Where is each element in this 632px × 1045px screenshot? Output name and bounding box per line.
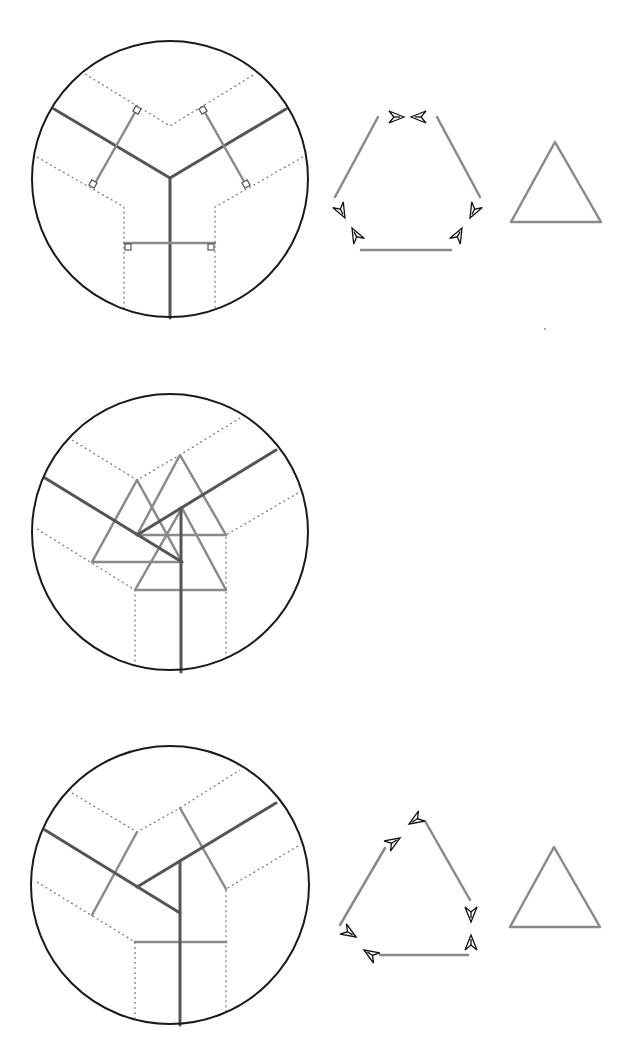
hexagon-loop-3 bbox=[340, 811, 477, 963]
dotted-boundary-right bbox=[215, 157, 303, 310]
dotted-boundary-right bbox=[226, 493, 298, 662]
arrow-icon bbox=[465, 907, 477, 922]
junction-arm-right bbox=[137, 803, 276, 887]
junction-arm-right bbox=[137, 450, 276, 535]
equilateral-triangle-1 bbox=[511, 142, 601, 222]
triangle-left bbox=[92, 480, 182, 562]
loop-edge bbox=[335, 117, 378, 197]
circle-outline bbox=[32, 394, 308, 670]
panel-1-circle-view bbox=[32, 41, 308, 318]
arrow-icon bbox=[333, 202, 351, 221]
loop-edge bbox=[425, 821, 470, 900]
arrow-icon bbox=[340, 924, 359, 942]
panel-1 bbox=[32, 41, 601, 318]
equilateral-triangle-3 bbox=[510, 847, 600, 927]
arrow-icon bbox=[384, 833, 403, 851]
arrow-icon bbox=[406, 811, 425, 829]
hexagon-loop-1 bbox=[333, 111, 483, 250]
stray-dot bbox=[544, 328, 546, 330]
diagram-canvas bbox=[0, 0, 632, 1045]
perpendicular-right bbox=[203, 109, 246, 185]
dotted-boundary-upper bbox=[72, 770, 240, 832]
right-angle-mark bbox=[125, 244, 131, 250]
dotted-boundary-upper bbox=[85, 74, 255, 126]
arrow-icon bbox=[465, 935, 477, 950]
arrow-icon bbox=[361, 945, 380, 963]
perpendicular-left bbox=[94, 109, 137, 185]
circle-outline bbox=[31, 746, 309, 1024]
arrow-icon bbox=[411, 111, 426, 123]
dotted-boundary-left bbox=[37, 529, 135, 666]
junction-arm-right bbox=[170, 109, 286, 178]
loop-edge bbox=[340, 848, 385, 925]
dotted-boundary-left bbox=[37, 157, 124, 310]
loop-edge bbox=[437, 117, 480, 197]
dotted-boundary-upper bbox=[72, 418, 240, 480]
arrow-icon bbox=[347, 225, 365, 244]
right-angle-mark bbox=[208, 244, 214, 250]
junction-arm-left bbox=[54, 109, 170, 178]
arrow-icon bbox=[450, 225, 468, 244]
dotted-boundary-left bbox=[37, 882, 135, 1018]
panel-3 bbox=[31, 746, 600, 1025]
panel-2 bbox=[32, 394, 308, 672]
panel-3-circle-view bbox=[31, 746, 309, 1025]
arrow-icon bbox=[465, 202, 483, 221]
arrow-icon bbox=[389, 111, 404, 123]
